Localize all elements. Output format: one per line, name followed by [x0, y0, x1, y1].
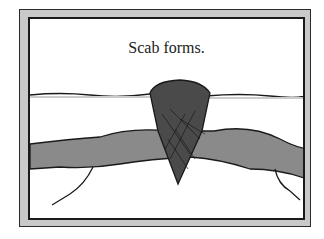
- scab: [150, 80, 210, 184]
- scab-illustration: [30, 19, 305, 220]
- illustration-panel: Scab forms.: [28, 17, 305, 220]
